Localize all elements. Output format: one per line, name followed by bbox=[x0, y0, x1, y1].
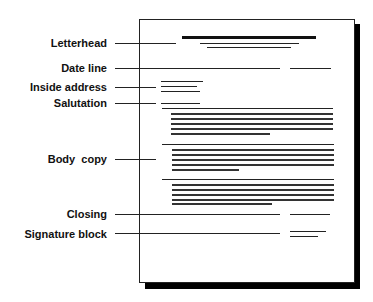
body-line bbox=[172, 199, 334, 201]
body-line bbox=[172, 194, 334, 196]
label-inside-address: Inside address bbox=[0, 81, 107, 93]
body-line bbox=[172, 149, 334, 151]
body-line bbox=[172, 159, 334, 161]
date-line bbox=[290, 68, 331, 69]
leader-signature-block bbox=[115, 233, 280, 234]
letterhead-line bbox=[182, 36, 316, 39]
leader-closing bbox=[115, 214, 280, 215]
signature-line bbox=[290, 236, 318, 237]
letter-page bbox=[139, 19, 355, 283]
inside-address-line bbox=[161, 81, 203, 82]
body-line bbox=[171, 118, 333, 120]
leader-inside-address bbox=[115, 87, 156, 88]
salutation-line bbox=[161, 103, 200, 104]
body-line bbox=[172, 203, 272, 205]
body-line bbox=[171, 113, 333, 115]
inside-address-line bbox=[161, 91, 200, 92]
body-line bbox=[171, 133, 270, 135]
body-line bbox=[162, 144, 334, 145]
letterhead-line bbox=[207, 47, 291, 48]
body-line bbox=[162, 108, 333, 109]
body-line bbox=[171, 128, 333, 130]
body-line bbox=[172, 154, 334, 156]
label-closing: Closing bbox=[0, 208, 107, 220]
label-letterhead: Letterhead bbox=[0, 37, 107, 49]
body-line bbox=[172, 164, 334, 166]
body-line bbox=[171, 123, 333, 125]
label-signature-block: Signature block bbox=[0, 228, 107, 240]
leader-body-copy bbox=[115, 159, 156, 160]
leader-letterhead bbox=[115, 43, 176, 44]
label-date-line: Date line bbox=[0, 62, 107, 74]
body-line bbox=[172, 169, 239, 171]
body-line bbox=[172, 184, 334, 186]
label-salutation: Salutation bbox=[0, 97, 107, 109]
leader-salutation bbox=[115, 103, 156, 104]
inside-address-line bbox=[161, 86, 197, 87]
label-body-copy: Body copy bbox=[0, 153, 107, 165]
leader-date-line bbox=[115, 68, 280, 69]
closing-line bbox=[290, 214, 330, 215]
body-line bbox=[162, 179, 334, 180]
letterhead-line bbox=[200, 43, 299, 44]
body-line bbox=[172, 189, 334, 191]
signature-line bbox=[290, 231, 326, 232]
